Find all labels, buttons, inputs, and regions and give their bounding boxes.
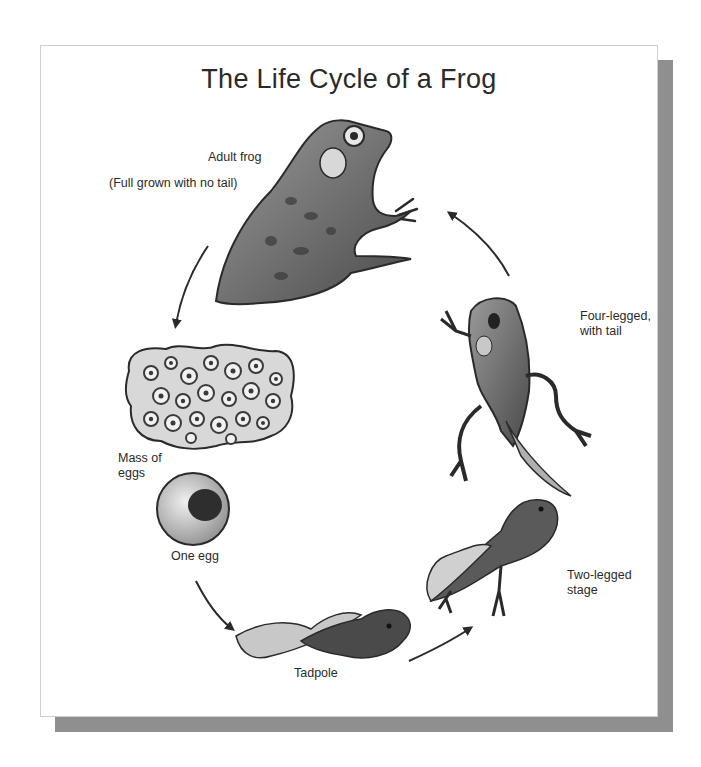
diagram-card: The Life Cycle of a Frog (40, 45, 658, 717)
one-egg-drawing (157, 473, 229, 545)
arrow-tadpole-to-two-legged (409, 629, 469, 661)
adult-frog-drawing (216, 120, 417, 304)
tadpole-drawing (236, 610, 410, 658)
label-four-legged: Four-legged, with tail (580, 309, 651, 339)
label-tadpole: Tadpole (294, 666, 338, 681)
arrow-four-legged-to-adult (451, 214, 509, 276)
life-cycle-illustration (41, 46, 657, 716)
label-adult-frog-note: (Full grown with no tail) (109, 176, 238, 191)
label-two-legged: Two-legged stage (567, 568, 632, 598)
label-one-egg: One egg (171, 549, 219, 564)
egg-mass-drawing (126, 345, 294, 449)
arrow-adult-to-eggs (176, 246, 208, 324)
arrow-egg-to-tadpole (196, 581, 231, 628)
label-adult-frog: Adult frog (208, 150, 262, 165)
two-legged-drawing (427, 500, 558, 616)
four-legged-drawing (441, 298, 591, 496)
label-mass-of-eggs: Mass of eggs (118, 451, 162, 481)
